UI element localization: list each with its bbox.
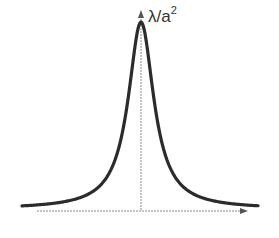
lorentzian-curve bbox=[22, 22, 258, 206]
y-axis-arrow-icon bbox=[138, 10, 144, 18]
peak-label-text: λ/a bbox=[148, 7, 171, 26]
x-axis-arrow-icon bbox=[240, 208, 248, 214]
peak-label: λ/a2 bbox=[148, 8, 177, 25]
lorentzian-plot bbox=[0, 0, 279, 238]
peak-label-exponent: 2 bbox=[171, 4, 177, 16]
